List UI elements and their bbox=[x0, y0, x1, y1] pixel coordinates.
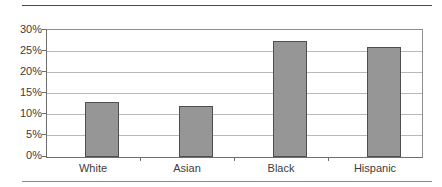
x-tickmark bbox=[234, 157, 235, 161]
x-tickmark bbox=[328, 157, 329, 161]
bar-chart: 30% 25% 20% 15% 10% 5% 0% bbox=[0, 0, 442, 187]
y-tick-label: 20% bbox=[2, 66, 42, 77]
bottom-horizontal-rule bbox=[22, 181, 432, 182]
y-tick-label: 15% bbox=[2, 87, 42, 98]
bar-black[interactable] bbox=[273, 41, 307, 157]
y-axis-labels: 30% 25% 20% 15% 10% 5% 0% bbox=[0, 29, 42, 156]
bar-white[interactable] bbox=[85, 102, 119, 157]
x-tickmark bbox=[140, 157, 141, 161]
figure-page: 30% 25% 20% 15% 10% 5% 0% bbox=[0, 0, 442, 187]
y-tick-label: 30% bbox=[2, 24, 42, 35]
y-tick-label: 10% bbox=[2, 108, 42, 119]
x-label-white: White bbox=[52, 162, 134, 175]
bar-hispanic[interactable] bbox=[367, 47, 401, 157]
x-label-asian: Asian bbox=[146, 162, 228, 175]
y-tick-label: 0% bbox=[2, 150, 42, 161]
x-label-hispanic: Hispanic bbox=[334, 162, 416, 175]
y-tick-label: 25% bbox=[2, 45, 42, 56]
bar-group bbox=[47, 30, 422, 157]
bar-asian[interactable] bbox=[179, 106, 213, 157]
y-tick-label: 5% bbox=[2, 129, 42, 140]
x-label-black: Black bbox=[240, 162, 322, 175]
